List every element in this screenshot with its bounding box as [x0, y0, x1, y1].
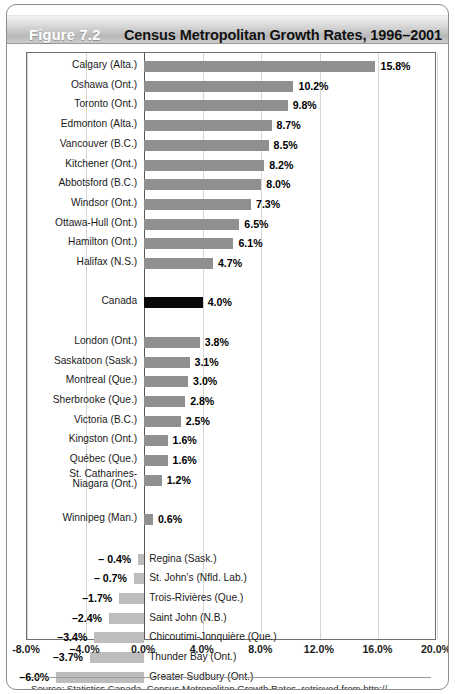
category-label: Saint John (N.B.)	[149, 612, 227, 623]
figure-title-bar: Figure 7.2 Census Metropolitan Growth Ra…	[7, 15, 449, 44]
value-label: 3.8%	[205, 336, 229, 348]
bar-row: –1.7%Trois-Rivières (Que.)	[27, 589, 435, 609]
value-label: 7.3%	[256, 198, 280, 210]
category-label: Windsor (Ont.)	[6, 198, 137, 209]
category-label: Vancouver (B.C.)	[6, 139, 137, 150]
category-label: Ottawa-Hull (Ont.)	[6, 218, 137, 229]
value-label: – 0.7%	[7, 572, 127, 584]
bar-row: Oshawa (Ont.)10.2%	[27, 77, 435, 97]
bar-row: Halifax (N.S.)4.7%	[27, 254, 435, 274]
bar-row: Winnipeg (Man.)0.6%	[27, 510, 435, 530]
bar	[144, 258, 213, 269]
bar	[144, 376, 188, 387]
category-label: Montreal (Que.)	[6, 375, 137, 386]
category-label: London (Ont.)	[6, 336, 137, 347]
bar-row: – 0.7%St. John's (Nfld. Lab.)	[27, 569, 435, 589]
bar	[144, 475, 162, 486]
bar-row: Kitchener (Ont.)8.2%	[27, 156, 435, 176]
category-label: Calgary (Alta.)	[6, 60, 137, 71]
value-label: 15.8%	[381, 60, 411, 72]
bar	[134, 573, 144, 584]
category-label: Winnipeg (Man.)	[6, 513, 137, 524]
value-label: –2.4%	[6, 612, 102, 624]
source-divider	[31, 677, 431, 678]
bar	[144, 357, 189, 368]
gridline-7	[437, 53, 438, 639]
value-label: 1.2%	[167, 474, 191, 486]
bar	[144, 416, 181, 427]
chart-plot-area: Calgary (Alta.)15.8%Oshawa (Ont.)10.2%To…	[26, 52, 436, 640]
bar	[144, 435, 167, 446]
bar	[138, 554, 144, 565]
value-label: 0.6%	[158, 513, 182, 525]
category-label: St. John's (Nfld. Lab.)	[149, 572, 247, 583]
value-label: 8.0%	[266, 178, 290, 190]
x-tick-label: 0.0%	[113, 643, 173, 655]
value-label: 2.5%	[186, 415, 210, 427]
value-label: 10.2%	[299, 80, 329, 92]
bar	[144, 120, 271, 131]
x-tick-label: 12.0%	[289, 643, 349, 655]
bar-row: Kingston (Ont.)1.6%	[27, 431, 435, 451]
bar-row: Victoria (B.C.)2.5%	[27, 412, 435, 432]
bar	[144, 238, 233, 249]
value-label: 6.1%	[238, 237, 262, 249]
bar	[144, 219, 239, 230]
value-label: 2.8%	[190, 395, 214, 407]
bar	[144, 199, 251, 210]
bar	[144, 179, 261, 190]
value-label: 4.0%	[208, 296, 232, 308]
x-tick-label: 16.0%	[347, 643, 407, 655]
bar	[144, 396, 185, 407]
figure-number-label: Figure 7.2	[29, 27, 101, 43]
bar	[144, 337, 200, 348]
category-label: Halifax (N.S.)	[6, 257, 137, 268]
bar-row: Windsor (Ont.)7.3%	[27, 195, 435, 215]
category-label: Kingston (Ont.)	[6, 434, 137, 445]
bar-row: Ottawa-Hull (Ont.)6.5%	[27, 215, 435, 235]
bar-row: Toronto (Ont.)9.8%	[27, 96, 435, 116]
x-tick-label: –4.0%	[55, 643, 115, 655]
category-label: Edmonton (Alta.)	[6, 119, 137, 130]
bar	[144, 160, 264, 171]
category-label: Hamilton (Ont.)	[6, 237, 137, 248]
category-label: Québec (Que.)	[6, 454, 137, 465]
bar	[144, 61, 375, 72]
bar	[144, 140, 268, 151]
value-label: 1.6%	[173, 434, 197, 446]
bar	[144, 297, 203, 308]
value-label: 8.2%	[269, 159, 293, 171]
category-label: Kitchener (Ont.)	[6, 159, 137, 170]
bar-row: –2.4%Saint John (N.B.)	[27, 609, 435, 629]
value-label: 9.8%	[293, 99, 317, 111]
bar-row: – 0.4%Regina (Sask.)	[27, 550, 435, 570]
category-label: Abbotsford (B.C.)	[6, 178, 137, 189]
source-note: Source: Statistics Canada, Census Metrop…	[31, 683, 435, 690]
category-label: Regina (Sask.)	[149, 553, 216, 564]
bar-row: London (Ont.)3.8%	[27, 333, 435, 353]
x-tick-label: 20.0%	[406, 643, 449, 655]
x-tick-label: 8.0%	[230, 643, 290, 655]
category-label: Victoria (B.C.)	[6, 415, 137, 426]
value-label: 3.1%	[195, 356, 219, 368]
bar-row: Saskatoon (Sask.)3.1%	[27, 353, 435, 373]
figure-title: Census Metropolitan Growth Rates, 1996–2…	[124, 27, 442, 43]
bar-row: Vancouver (B.C.)8.5%	[27, 136, 435, 156]
value-label: – 0.4%	[11, 553, 131, 565]
value-label: 1.6%	[173, 454, 197, 466]
category-label: Canada	[6, 296, 137, 307]
value-label: 4.7%	[218, 257, 242, 269]
bar	[94, 632, 144, 643]
bar	[109, 613, 144, 624]
bar-row: Edmonton (Alta.)8.7%	[27, 116, 435, 136]
bar	[144, 514, 153, 525]
x-tick-label: 4.0%	[172, 643, 232, 655]
bar-row: Abbotsford (B.C.)8.0%	[27, 175, 435, 195]
category-label: Trois-Rivières (Que.)	[149, 592, 243, 603]
bar	[119, 593, 144, 604]
bar	[144, 81, 293, 92]
value-label: 6.5%	[244, 218, 268, 230]
value-label: 8.7%	[277, 119, 301, 131]
bar-row: Montreal (Que.)3.0%	[27, 372, 435, 392]
value-label: –1.7%	[6, 592, 112, 604]
